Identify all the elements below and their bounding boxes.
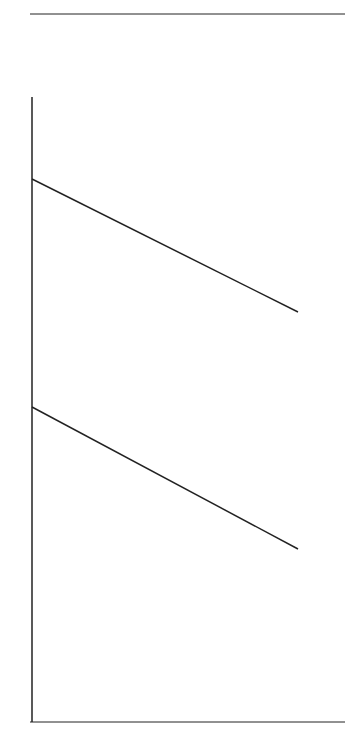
- diagram-lines: [0, 0, 348, 737]
- fishbone-diagram: [0, 0, 348, 737]
